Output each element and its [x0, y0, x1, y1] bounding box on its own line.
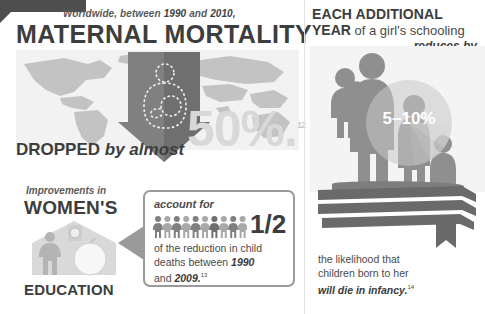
- callout-footnote: 13: [201, 272, 208, 278]
- maternal-mortality-title: MATERNAL MORTALITY: [16, 20, 312, 49]
- panel-divider: [304, 0, 305, 314]
- callout-fraction: 1/2: [250, 211, 286, 237]
- education-kicker: Improvements in: [26, 185, 106, 196]
- callout-body-line3-prefix: and: [154, 272, 174, 284]
- schoolhouse-woman-apple-icon: [24, 217, 128, 279]
- callout-left-arrow-icon: [118, 226, 144, 260]
- people-row-icon: [153, 215, 247, 239]
- right-title-year-strong: YEAR: [312, 22, 351, 38]
- fifty-percent-value: 50%.: [187, 101, 297, 157]
- right-body-line3: will die in infancy.: [318, 284, 407, 296]
- infographic-root: Worldwide, between 1990 and 2010, MATERN…: [0, 0, 485, 314]
- right-title-line2-rest: of a girl's schooling: [351, 23, 465, 38]
- maternal-kicker: Worldwide, between 1990 and 2010,: [63, 8, 236, 19]
- mother-and-baby-icon: [138, 60, 192, 136]
- callout-year-1990: 1990: [231, 256, 254, 268]
- kicker-middle: and: [186, 8, 210, 19]
- dropped-line: DROPPED by almost: [16, 140, 184, 160]
- dropped-word: DROPPED: [16, 140, 100, 159]
- percent-reduction-value: 5–10%: [366, 109, 452, 129]
- kicker-year-to: 2010,: [210, 8, 236, 19]
- kicker-prefix: Worldwide, between: [63, 8, 164, 19]
- callout-box: account for 1/2 of the reduction in c: [143, 190, 295, 287]
- stacked-books-icon: [312, 186, 482, 254]
- right-title-line1: EACH ADDITIONAL: [312, 6, 443, 22]
- callout-body: of the reduction in child deaths between…: [154, 242, 292, 285]
- education-panel: Improvements in WOMEN'S EDUCATION: [24, 185, 128, 309]
- kicker-year-from: 1990: [164, 8, 187, 19]
- right-body-line2: children born to her: [318, 267, 408, 279]
- left-panel: Worldwide, between 1990 and 2010, MATERN…: [0, 0, 303, 314]
- callout-body-line2-prefix: deaths between: [154, 256, 231, 268]
- right-title-line2: YEAR of a girl's schooling: [312, 22, 465, 38]
- right-body-text: the likelihood that children born to her…: [318, 252, 478, 297]
- callout-year-2009: 2009.: [174, 272, 200, 284]
- right-panel: EACH ADDITIONAL YEAR of a girl's schooli…: [308, 0, 485, 314]
- fifty-percent-stat: 50%.12: [187, 104, 305, 154]
- education-womens-label: WOMEN'S: [24, 197, 118, 219]
- right-body-line1: the likelihood that: [318, 253, 400, 265]
- callout-body-line1: of the reduction in child: [154, 242, 262, 254]
- right-body-footnote: 14: [407, 284, 414, 290]
- education-label: EDUCATION: [24, 281, 114, 298]
- dropped-rest: by almost: [100, 140, 184, 159]
- callout-lead: account for: [154, 198, 214, 210]
